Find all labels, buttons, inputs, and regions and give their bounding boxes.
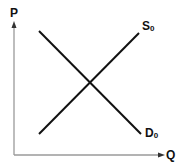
- supply-label-main: S: [142, 19, 150, 33]
- supply-curve-label: S0: [142, 20, 154, 32]
- demand-curve-label: D0: [145, 127, 158, 139]
- x-axis-label: Q: [166, 149, 175, 161]
- demand-label-main: D: [145, 126, 154, 140]
- x-axis-arrow-icon: [158, 153, 165, 158]
- supply-label-subscript: 0: [150, 24, 154, 33]
- supply-curve: [39, 33, 139, 134]
- demand-label-subscript: 0: [154, 131, 158, 140]
- y-axis-arrow-icon: [12, 21, 17, 28]
- y-axis-label: P: [10, 7, 18, 19]
